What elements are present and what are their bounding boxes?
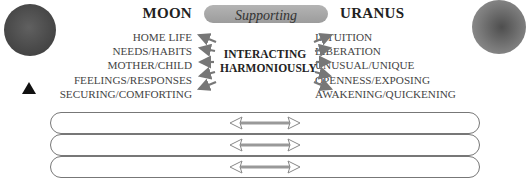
double-arrow-icon xyxy=(230,161,300,173)
row-arrows xyxy=(0,0,526,184)
double-arrow-icon xyxy=(230,139,300,151)
double-arrow-icon xyxy=(230,117,300,129)
